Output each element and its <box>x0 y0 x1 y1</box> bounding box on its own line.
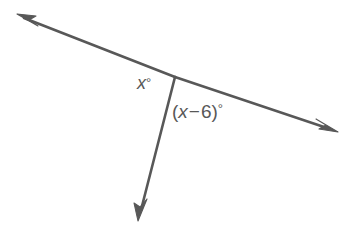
ray-upper-left-line <box>24 18 175 77</box>
x-angle-variable: x <box>137 73 146 93</box>
expr-degree-symbol: ° <box>218 101 223 116</box>
expr-operator: − <box>188 101 201 122</box>
expr-number: 6 <box>201 101 212 122</box>
arrowhead-upper-left-icon <box>17 14 38 26</box>
x-minus-6-angle-label: (x−6)° <box>172 102 223 121</box>
expr-variable: x <box>178 101 188 122</box>
arrowhead-downward-icon <box>134 199 147 221</box>
ray-downward-line <box>141 77 175 210</box>
x-angle-label: x° <box>137 74 151 92</box>
x-angle-degree-symbol: ° <box>146 75 151 90</box>
angle-diagram-figure: x° (x−6)° <box>0 0 352 240</box>
